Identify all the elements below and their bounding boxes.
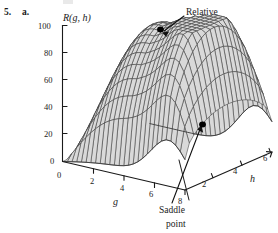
h-tick-2 <box>211 174 213 178</box>
relative-maximum-dot <box>157 27 164 33</box>
figure-container: 5. a. R(g, h) 100 80 60 40 20 0 0 2 4 6 … <box>0 0 278 233</box>
h-tick-4 <box>240 161 242 165</box>
h-axis-line <box>185 152 272 190</box>
surface-plot <box>0 0 278 233</box>
saddle-point-dot <box>199 122 206 128</box>
surface-mesh <box>63 14 273 165</box>
